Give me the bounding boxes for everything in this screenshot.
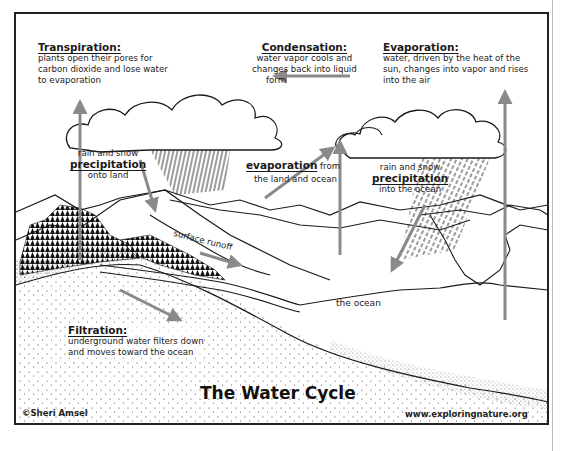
evaporation-line: sun, changes into vapor and rises: [383, 64, 528, 75]
evaporation-line: water, driven by the heat of the: [383, 53, 528, 64]
diagram-title: The Water Cycle: [200, 383, 356, 403]
condensation-line: water vapor cools and: [252, 53, 357, 64]
label-ocean: the ocean: [336, 298, 381, 309]
filtration-heading: Filtration:: [68, 325, 204, 336]
evaporation-line: into the air: [383, 75, 528, 86]
evap-lo-post: the land and ocean: [246, 174, 340, 185]
label-transpiration: Transpiration: plants open their pores f…: [38, 42, 168, 86]
condensation-line: form: [252, 75, 357, 86]
label-condensation: Condensation: water vapor cools and chan…: [252, 42, 357, 86]
transpiration-line: carbon dioxide and lose water: [38, 64, 168, 75]
evap-lo-suffix: from: [320, 161, 340, 171]
rain-left: [150, 150, 230, 195]
condensation-line: changes back into liquid: [252, 64, 357, 75]
transpiration-line: plants open their pores for: [38, 53, 168, 64]
cloud-right: [339, 110, 506, 158]
credit-author: ©Sheri Amsel: [22, 408, 88, 418]
label-evaporation: Evaporation: water, driven by the heat o…: [383, 42, 528, 86]
label-precipitation-land: rain and snow precipitation onto land: [70, 148, 146, 181]
label-precipitation-ocean: rain and snow precipitation into the oce…: [372, 162, 448, 195]
arrow-surface-runoff: [200, 253, 240, 265]
precip-ocean-heading: precipitation: [372, 173, 448, 184]
evaporation-heading: Evaporation:: [383, 42, 528, 53]
precip-ocean-post: into the ocean: [372, 184, 448, 195]
filtration-line: underground water filters down: [68, 336, 204, 347]
precip-land-heading: precipitation: [70, 159, 146, 170]
label-evaporation-land-ocean: evaporation from the land and ocean: [246, 160, 340, 185]
precip-land-post: onto land: [70, 170, 146, 181]
credit-website: www.exploringnature.org: [405, 409, 528, 419]
transpiration-heading: Transpiration:: [38, 42, 168, 53]
label-filtration: Filtration: underground water filters do…: [68, 325, 204, 358]
condensation-heading: Condensation:: [252, 42, 357, 53]
evap-lo-heading: evaporation: [246, 159, 317, 171]
transpiration-line: to evaporation: [38, 75, 168, 86]
cloud-left: [66, 95, 281, 152]
filtration-line: and moves toward the ocean: [68, 347, 204, 358]
